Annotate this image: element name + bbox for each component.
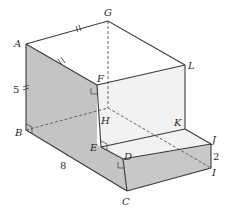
vertex-label-C: C (122, 196, 130, 207)
vertex-label-G: G (104, 7, 112, 18)
vertex-label-J: J (210, 134, 217, 145)
vertex-label-D: D (123, 151, 132, 162)
vertex-label-H: H (100, 115, 110, 126)
vertex-label-I: I (211, 167, 217, 178)
vertex-label-B: B (14, 127, 22, 138)
vertex-label-F: F (96, 73, 105, 84)
vertex-label-K: K (173, 117, 182, 128)
vertex-label-A: A (13, 38, 21, 49)
l-shaped-prism-diagram: A G F L H B E D K J I C 5 8 2 (0, 0, 227, 212)
vertex-label-L: L (187, 60, 195, 71)
measurement-BC: 8 (60, 160, 66, 171)
measurement-AB: 5 (13, 84, 19, 95)
measurement-IJ: 2 (213, 151, 219, 162)
vertex-label-E: E (89, 142, 98, 153)
